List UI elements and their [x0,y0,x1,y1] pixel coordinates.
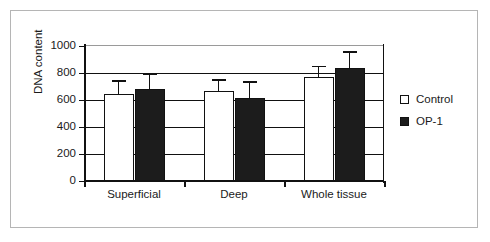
chart-figure: DNA content 02004006008001000 Superficia… [0,0,490,242]
bar-deep-control [204,91,234,181]
legend-item-control: Control [400,88,472,110]
plot-area: 02004006008001000 [84,46,384,181]
error-bar-cap [343,51,357,53]
error-bar-stem [149,73,151,89]
filled-square-swatch [400,117,409,126]
error-bar-stem [349,51,351,68]
y-tick-label: 0 [70,175,76,187]
y-tick-mark [79,154,84,155]
bar-deep-op-1 [235,98,265,181]
x-axis-label-superficial: Superficial [107,188,161,200]
y-tick-label: 1000 [50,40,76,52]
error-bar-stem [249,81,251,98]
error-bar-stem [218,79,220,91]
error-bar-cap [243,81,257,83]
error-bar-stem [318,66,320,77]
chart-legend: ControlOP-1 [400,88,472,132]
error-bar-cap [212,79,226,81]
bar-whole-tissue-op-1 [335,68,365,181]
bar-whole-tissue-control [304,77,334,181]
error-bar-cap [112,80,126,82]
legend-item-op-1: OP-1 [400,110,472,132]
legend-label: Control [416,93,453,105]
x-axis-label-deep: Deep [220,188,248,200]
open-square-swatch [400,95,409,104]
x-axis-label-whole-tissue: Whole tissue [301,188,367,200]
y-tick-label: 400 [57,121,76,133]
y-axis-title: DNA content [32,29,44,94]
y-tick-label: 800 [57,67,76,79]
legend-label: OP-1 [416,115,443,127]
error-bar-stem [118,80,120,94]
x-tick-mark [384,181,386,187]
x-tick-mark [84,181,86,187]
x-tick-mark [284,181,286,187]
error-bar-cap [143,73,157,75]
y-tick-mark [79,73,84,74]
y-tick-mark [79,100,84,101]
x-tick-mark [184,181,186,187]
y-tick-label: 600 [57,94,76,106]
error-bar-cap [312,66,326,68]
y-tick-label: 200 [57,148,76,160]
y-tick-mark [79,127,84,128]
y-axis-title-container: DNA content [40,60,54,160]
bar-superficial-op-1 [135,89,165,181]
y-tick-mark [79,46,84,47]
bar-superficial-control [104,94,134,181]
